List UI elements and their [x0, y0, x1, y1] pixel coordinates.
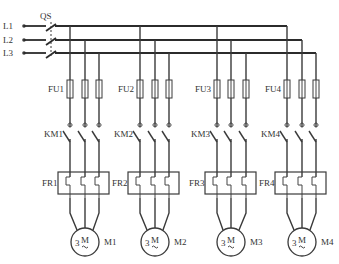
line-label-l3: L3: [3, 48, 13, 58]
motor-control-diagram: L1L2L3QS FU1KM1FR13MM1FU2KM2FR23MM2FU3KM…: [0, 0, 339, 264]
motor-symbol: M: [227, 235, 235, 245]
motor-branches: FU1KM1FR13MM1FU2KM2FR23MM2FU3KM3FR33MM3F…: [42, 26, 334, 256]
thermal-element-icon: [242, 177, 246, 198]
thermal-relay-label: FR4: [259, 178, 275, 188]
motor-lead: [287, 198, 294, 230]
contactor-blade-icon: [295, 131, 302, 142]
fuse-label: FU3: [195, 84, 212, 94]
branch-4: FU4KM4FR43MM4: [259, 26, 334, 256]
motor-label: M2: [174, 237, 187, 247]
motor-phase-count: 3: [75, 238, 80, 248]
contactor-blade-icon: [309, 131, 316, 142]
line-label-l1: L1: [3, 21, 13, 31]
motor-phase-count: 3: [292, 238, 297, 248]
thermal-relay-label: FR3: [189, 178, 205, 188]
motor-phase-count: 3: [145, 238, 150, 248]
motor-label: M1: [104, 237, 117, 247]
contactor-blade-icon: [133, 131, 140, 142]
switch-label-qs: QS: [40, 11, 52, 21]
contactor-blade-icon: [210, 131, 217, 142]
thermal-element-icon: [283, 177, 287, 198]
thermal-element-icon: [151, 177, 155, 198]
contactor-label: KM2: [114, 129, 133, 139]
contactor-blade-icon: [92, 131, 99, 142]
thermal-element-icon: [165, 177, 169, 198]
motor-lead: [217, 198, 223, 230]
contactor-blade-icon: [162, 131, 169, 142]
branch-1: FU1KM1FR13MM1: [42, 26, 117, 256]
thermal-element-icon: [95, 177, 99, 198]
motor-symbol: M: [151, 235, 159, 245]
motor-phase-count: 3: [221, 238, 226, 248]
motor-lead: [70, 198, 77, 230]
branch-3: FU3KM3FR33MM3: [189, 26, 263, 256]
thermal-relay-label: FR2: [112, 178, 128, 188]
motor-lead: [93, 198, 99, 230]
fuse-label: FU2: [118, 84, 134, 94]
contactor-label: KM3: [191, 129, 211, 139]
fuse-label: FU4: [265, 84, 282, 94]
motor-symbol: M: [298, 235, 306, 245]
thermal-element-icon: [66, 177, 70, 198]
contactor-blade-icon: [280, 131, 287, 142]
motor-lead: [163, 198, 169, 230]
motor-label: M4: [321, 237, 334, 247]
motor-symbol: M: [81, 235, 89, 245]
contactor-label: KM4: [261, 129, 281, 139]
power-supply: L1L2L3QS: [3, 11, 316, 58]
motor-lead: [140, 198, 147, 230]
thermal-relay-label: FR1: [42, 178, 58, 188]
thermal-element-icon: [298, 177, 302, 198]
thermal-element-icon: [213, 177, 217, 198]
contactor-blade-icon: [224, 131, 231, 142]
thermal-element-icon: [81, 177, 85, 198]
contactor-blade-icon: [78, 131, 85, 142]
line-label-l2: L2: [3, 35, 13, 45]
motor-lead: [239, 198, 246, 230]
fuse-label: FU1: [48, 84, 64, 94]
contactor-blade-icon: [63, 131, 70, 142]
thermal-element-icon: [312, 177, 316, 198]
contactor-blade-icon: [239, 131, 246, 142]
motor-label: M3: [250, 237, 263, 247]
contactor-label: KM1: [44, 129, 63, 139]
motor-lead: [310, 198, 316, 230]
thermal-element-icon: [227, 177, 231, 198]
branch-2: FU2KM2FR23MM2: [112, 26, 187, 256]
thermal-element-icon: [136, 177, 140, 198]
contactor-blade-icon: [148, 131, 155, 142]
